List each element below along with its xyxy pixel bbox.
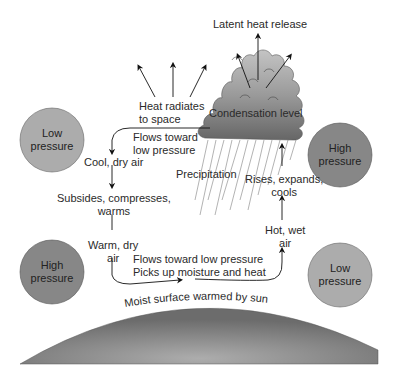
heat-radiates-line2: to space xyxy=(139,113,204,126)
warm-dry-line1: Warm, dry xyxy=(88,239,138,252)
condensation-label: Condensation level xyxy=(209,107,303,120)
pressure-type: Low xyxy=(20,127,84,140)
flows-toward-line1: Flows toward xyxy=(133,131,198,144)
convection-diagram: Moist surface warmed by sun xyxy=(0,0,395,376)
pressure-type: High xyxy=(20,259,84,272)
latent-heat-label: Latent heat release xyxy=(213,18,307,31)
surface-label: Moist surface warmed by sun xyxy=(123,290,268,309)
heat-radiates-arrows xyxy=(139,65,205,97)
subsides-label: Subsides, compresses, warms xyxy=(57,192,171,218)
pressure-label-bottom-right: Low pressure xyxy=(308,262,372,288)
precipitation-label: Precipitation xyxy=(176,168,237,181)
subsides-line1: Subsides, compresses, xyxy=(57,192,171,205)
rises-line2: cools xyxy=(245,186,323,199)
warm-dry-air-label: Warm, dry air xyxy=(88,239,138,265)
pressure-word: pressure xyxy=(308,155,372,168)
pressure-word: pressure xyxy=(20,140,84,153)
surface-flow-line2: Picks up moisture and heat xyxy=(133,266,266,279)
hot-wet-line1: Hot, wet xyxy=(265,224,305,237)
hot-wet-air-label: Hot, wet air xyxy=(265,224,305,250)
pressure-word: pressure xyxy=(308,275,372,288)
heat-radiates-line1: Heat radiates xyxy=(139,100,204,113)
ground-surface xyxy=(20,308,378,364)
hot-wet-line2: air xyxy=(265,237,305,250)
subsides-line2: warms xyxy=(57,205,171,218)
pressure-label-top-right: High pressure xyxy=(308,142,372,168)
pressure-word: pressure xyxy=(20,272,84,285)
surface-flow-line1: Flows toward low pressure xyxy=(133,253,266,266)
rises-label: Rises, expands, cools xyxy=(245,173,323,199)
pressure-type: Low xyxy=(308,262,372,275)
pressure-type: High xyxy=(308,142,372,155)
cumulonimbus-cloud xyxy=(198,50,304,140)
surface-flow-label: Flows toward low pressure Picks up moist… xyxy=(133,253,266,279)
warm-dry-line2: air xyxy=(88,252,138,265)
flows-toward-label: Flows toward low pressure xyxy=(133,131,198,157)
pressure-label-bottom-left: High pressure xyxy=(20,259,84,285)
cool-dry-air-label: Cool, dry air xyxy=(84,156,143,169)
pressure-label-top-left: Low pressure xyxy=(20,127,84,153)
rises-line1: Rises, expands, xyxy=(245,173,323,186)
heat-radiates-label: Heat radiates to space xyxy=(139,100,204,126)
